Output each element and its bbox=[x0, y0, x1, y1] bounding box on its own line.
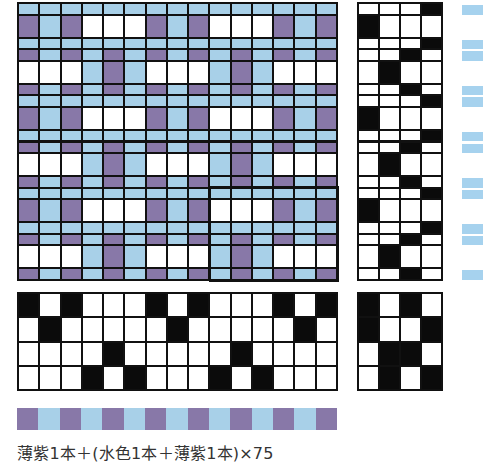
weave-cell bbox=[40, 189, 59, 199]
weave-cell bbox=[168, 50, 187, 60]
tieup-cell bbox=[401, 318, 420, 340]
weave-cell bbox=[147, 108, 166, 129]
weave-cell bbox=[210, 246, 229, 267]
treadling-cell bbox=[359, 50, 378, 60]
weave-cell bbox=[295, 143, 314, 153]
weave-cell bbox=[253, 154, 272, 175]
threading-cell bbox=[274, 318, 293, 340]
weave-cell bbox=[189, 143, 208, 153]
weave-cell bbox=[317, 143, 336, 153]
weave-cell bbox=[147, 39, 166, 49]
treadling-cell bbox=[422, 39, 441, 49]
weft-blue-block bbox=[462, 97, 483, 107]
treadling-cell bbox=[359, 108, 378, 129]
weft-blue-block bbox=[462, 236, 483, 246]
weave-cell bbox=[295, 85, 314, 95]
weave-cell bbox=[125, 131, 144, 141]
threading-cell bbox=[147, 343, 166, 365]
warp-color-block bbox=[60, 408, 81, 430]
weave-cell bbox=[83, 131, 102, 141]
weave-cell bbox=[168, 246, 187, 267]
weave-cell bbox=[168, 62, 187, 83]
weave-cell bbox=[295, 39, 314, 49]
weave-cell bbox=[274, 246, 293, 267]
threading-cell bbox=[104, 343, 123, 365]
treadling-cell bbox=[380, 4, 399, 14]
weave-cell bbox=[295, 223, 314, 233]
weave-cell bbox=[168, 131, 187, 141]
weave-cell bbox=[317, 223, 336, 233]
treadling-draft bbox=[357, 2, 443, 281]
weave-cell bbox=[189, 235, 208, 245]
weave-cell bbox=[232, 177, 251, 187]
treadling-cell bbox=[359, 62, 378, 83]
weave-cell bbox=[317, 108, 336, 129]
weave-cell bbox=[253, 246, 272, 267]
weave-cell bbox=[210, 39, 229, 49]
weave-cell bbox=[104, 4, 123, 14]
weave-cell bbox=[253, 131, 272, 141]
weave-cell bbox=[147, 143, 166, 153]
weave-cell bbox=[125, 50, 144, 60]
treadling-cell bbox=[422, 143, 441, 153]
weave-cell bbox=[317, 4, 336, 14]
weave-cell bbox=[232, 143, 251, 153]
weave-cell bbox=[232, 269, 251, 279]
weft-blue-block bbox=[462, 190, 483, 200]
threading-cell bbox=[83, 318, 102, 340]
weave-cell bbox=[40, 143, 59, 153]
treadling-cell bbox=[380, 85, 399, 95]
weave-cell bbox=[83, 235, 102, 245]
threading-draft bbox=[17, 292, 338, 391]
treadling-cell bbox=[380, 50, 399, 60]
weave-cell bbox=[83, 143, 102, 153]
weave-cell bbox=[232, 50, 251, 60]
weave-cell bbox=[83, 269, 102, 279]
weave-cell bbox=[189, 200, 208, 221]
threading-cell bbox=[19, 318, 38, 340]
weave-cell bbox=[210, 223, 229, 233]
threading-cell bbox=[210, 367, 229, 389]
weave-cell bbox=[19, 50, 38, 60]
threading-cell bbox=[317, 318, 336, 340]
weave-cell bbox=[104, 269, 123, 279]
treadling-cell bbox=[422, 189, 441, 199]
weave-cell bbox=[125, 154, 144, 175]
weave-cell bbox=[83, 108, 102, 129]
weave-cell bbox=[274, 269, 293, 279]
weave-cell bbox=[62, 85, 81, 95]
weave-cell bbox=[189, 62, 208, 83]
weave-cell bbox=[19, 4, 38, 14]
threading-cell bbox=[19, 343, 38, 365]
threading-cell bbox=[83, 343, 102, 365]
weave-cell bbox=[125, 143, 144, 153]
treadling-cell bbox=[359, 85, 378, 95]
weave-cell bbox=[104, 131, 123, 141]
weave-cell bbox=[104, 200, 123, 221]
treadling-cell bbox=[359, 269, 378, 279]
threading-cell bbox=[147, 367, 166, 389]
threading-cell bbox=[189, 318, 208, 340]
weave-cell bbox=[19, 85, 38, 95]
weave-cell bbox=[168, 223, 187, 233]
weave-cell bbox=[104, 16, 123, 37]
weave-cell bbox=[147, 154, 166, 175]
weave-cell bbox=[83, 4, 102, 14]
warp-color-strip bbox=[17, 408, 337, 430]
weave-cell bbox=[189, 96, 208, 106]
treadling-cell bbox=[422, 177, 441, 187]
weave-cell bbox=[210, 177, 229, 187]
weave-cell bbox=[274, 39, 293, 49]
weave-cell bbox=[125, 16, 144, 37]
weave-cell bbox=[253, 16, 272, 37]
weave-cell bbox=[295, 62, 314, 83]
weave-cell bbox=[253, 235, 272, 245]
threading-cell bbox=[210, 294, 229, 316]
threading-cell bbox=[19, 294, 38, 316]
treadling-cell bbox=[359, 39, 378, 49]
weave-cell bbox=[295, 108, 314, 129]
weave-cell bbox=[19, 62, 38, 83]
treadling-cell bbox=[422, 154, 441, 175]
treadling-cell bbox=[380, 269, 399, 279]
weave-cell bbox=[274, 96, 293, 106]
